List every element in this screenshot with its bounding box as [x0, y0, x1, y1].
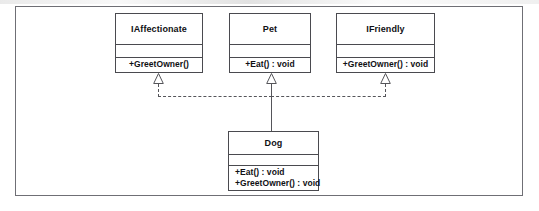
- uml-operation: +Eat() : void: [230, 59, 310, 70]
- uml-operation: +Eat() : void: [235, 167, 318, 178]
- uml-operation: +GreetOwner() : void: [337, 59, 434, 70]
- uml-operations-iaffectionate: +GreetOwner(): [116, 58, 202, 72]
- uml-class-name-ifriendly: IFriendly: [337, 14, 434, 44]
- uml-class-iaffectionate[interactable]: IAffectionate +GreetOwner(): [115, 13, 203, 73]
- uml-operation: +GreetOwner() : void: [235, 178, 318, 189]
- realization-line-iaffectionate-horizontal: [158, 96, 272, 97]
- uml-class-name-dog: Dog: [229, 132, 318, 154]
- realization-line-ifriendly-horizontal: [271, 96, 386, 97]
- uml-operation: +GreetOwner(): [116, 59, 202, 70]
- uml-attributes-ifriendly: [337, 45, 434, 57]
- hollow-triangle-arrowhead-ifriendly: [380, 73, 391, 84]
- diagram-canvas: IAffectionate +GreetOwner() Pet +Eat() :…: [0, 0, 539, 211]
- scan-artifact-strip: [0, 0, 539, 4]
- uml-class-name-pet: Pet: [230, 14, 310, 44]
- uml-operations-ifriendly: +GreetOwner() : void: [337, 58, 434, 72]
- uml-class-pet[interactable]: Pet +Eat() : void: [229, 13, 311, 73]
- uml-attributes-iaffectionate: [116, 45, 202, 57]
- hollow-triangle-arrowhead-iaffectionate: [153, 73, 164, 84]
- uml-class-ifriendly[interactable]: IFriendly +GreetOwner() : void: [336, 13, 435, 73]
- uml-operations-dog: +Eat() : void +GreetOwner() : void: [229, 166, 318, 190]
- uml-attributes-dog: [229, 155, 318, 165]
- hollow-triangle-arrowhead-pet: [266, 73, 277, 84]
- generalization-line-pet: [271, 84, 272, 131]
- uml-class-dog[interactable]: Dog +Eat() : void +GreetOwner() : void: [228, 131, 319, 191]
- uml-class-name-iaffectionate: IAffectionate: [116, 14, 202, 44]
- uml-attributes-pet: [230, 45, 310, 57]
- uml-operations-pet: +Eat() : void: [230, 58, 310, 72]
